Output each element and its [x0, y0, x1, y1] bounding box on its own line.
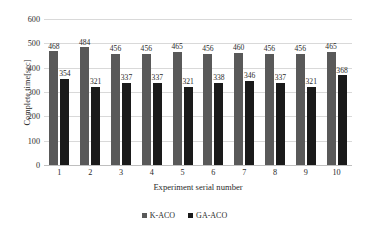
bar-value-label: 354 [59, 70, 70, 78]
legend-swatch-icon [142, 213, 147, 218]
bar-ga-aco: 337 [276, 83, 285, 165]
x-axis-tick-labels: 12345678910 [44, 168, 352, 177]
bar-value-label: 337 [275, 74, 286, 82]
x-axis-tick-label: 4 [136, 168, 167, 177]
bar-value-label: 456 [264, 45, 275, 53]
x-axis-tick-label: 6 [198, 168, 229, 177]
bar-group: 468354 [44, 19, 75, 165]
bar-ga-aco: 368 [338, 75, 347, 165]
bar-group-bars: 468354 [44, 19, 75, 165]
y-axis-tick-label: 100 [28, 136, 40, 145]
x-axis-tick-label: 1 [44, 168, 75, 177]
bar-value-label: 468 [48, 43, 59, 51]
bar-value-label: 337 [152, 74, 163, 82]
bar-ga-aco: 337 [153, 83, 162, 165]
bar-value-label: 465 [325, 43, 336, 51]
x-axis-tick-label: 7 [229, 168, 260, 177]
x-axis-tick-label: 2 [75, 168, 106, 177]
gridline: 0 [44, 165, 352, 166]
legend-label: GA-ACO [196, 211, 227, 220]
bar-ga-aco: 346 [245, 81, 254, 165]
bar-group-bars: 465368 [321, 19, 352, 165]
bar-value-label: 337 [121, 74, 132, 82]
x-axis-tick-label: 10 [321, 168, 352, 177]
bar-group-bars: 456337 [106, 19, 137, 165]
x-axis-tick-label: 9 [290, 168, 321, 177]
bar-group: 456338 [198, 19, 229, 165]
bar-group-bars: 456337 [136, 19, 167, 165]
bar-k-aco: 456 [111, 54, 120, 165]
bar-group-bars: 456337 [260, 19, 291, 165]
bar-value-label: 346 [244, 72, 255, 80]
bar-group-bars: 460346 [229, 19, 260, 165]
legend-label: K-ACO [150, 211, 175, 220]
bar-group-bars: 456338 [198, 19, 229, 165]
bar-ga-aco: 338 [214, 83, 223, 165]
bar-groups: 4683544843214563374563374653214563384603… [44, 19, 352, 165]
bar-group: 456337 [136, 19, 167, 165]
x-axis-tick-label: 3 [106, 168, 137, 177]
legend-item-k-aco[interactable]: K-ACO [142, 211, 175, 220]
y-axis-tick-label: 500 [28, 39, 40, 48]
x-axis-tick-label: 5 [167, 168, 198, 177]
bar-value-label: 321 [90, 78, 101, 86]
legend-swatch-icon [188, 213, 193, 218]
bar-group: 460346 [229, 19, 260, 165]
bar-group: 465368 [321, 19, 352, 165]
bar-group-bars: 484321 [75, 19, 106, 165]
y-axis-tick-label: 600 [28, 15, 40, 24]
bar-group: 456321 [290, 19, 321, 165]
bar-group: 465321 [167, 19, 198, 165]
bar-value-label: 456 [110, 45, 121, 53]
bar-group: 456337 [260, 19, 291, 165]
bar-k-aco: 484 [80, 47, 89, 165]
bar-group: 484321 [75, 19, 106, 165]
y-axis-tick-label: 300 [28, 88, 40, 97]
x-axis-tick-label: 8 [260, 168, 291, 177]
bar-ga-aco: 321 [307, 87, 316, 165]
bar-k-aco: 456 [265, 54, 274, 165]
bar-ga-aco: 337 [122, 83, 131, 165]
bar-ga-aco: 321 [91, 87, 100, 165]
bar-k-aco: 456 [296, 54, 305, 165]
bar-k-aco: 460 [234, 53, 243, 165]
bar-ga-aco: 321 [184, 87, 193, 165]
bar-value-label: 465 [171, 43, 182, 51]
bar-k-aco: 468 [49, 51, 58, 165]
legend: K-ACOGA-ACO [0, 211, 369, 220]
bar-value-label: 338 [213, 74, 224, 82]
bar-k-aco: 456 [142, 54, 151, 165]
bar-k-aco: 465 [173, 52, 182, 165]
legend-item-ga-aco[interactable]: GA-ACO [188, 211, 227, 220]
bar-group: 456337 [106, 19, 137, 165]
y-axis-tick-label: 0 [36, 161, 40, 170]
bar-value-label: 321 [182, 78, 193, 86]
bar-group-bars: 465321 [167, 19, 198, 165]
plot-area: 0100200300400500600 46835448432145633745… [44, 19, 352, 165]
y-axis-tick-label: 400 [28, 63, 40, 72]
bar-value-label: 484 [79, 39, 90, 47]
bar-k-aco: 456 [203, 54, 212, 165]
bar-value-label: 456 [141, 45, 152, 53]
x-axis-title: Experiment serial number [44, 182, 352, 192]
bar-value-label: 460 [233, 44, 244, 52]
y-axis-tick-label: 200 [28, 112, 40, 121]
bar-chart: Complete time[sec] 0100200300400500600 4… [0, 0, 369, 234]
bar-value-label: 368 [336, 67, 347, 75]
bar-ga-aco: 354 [60, 79, 69, 165]
bar-k-aco: 465 [327, 52, 336, 165]
bar-value-label: 456 [295, 45, 306, 53]
bar-value-label: 456 [202, 45, 213, 53]
bar-value-label: 321 [306, 78, 317, 86]
bar-group-bars: 456321 [290, 19, 321, 165]
